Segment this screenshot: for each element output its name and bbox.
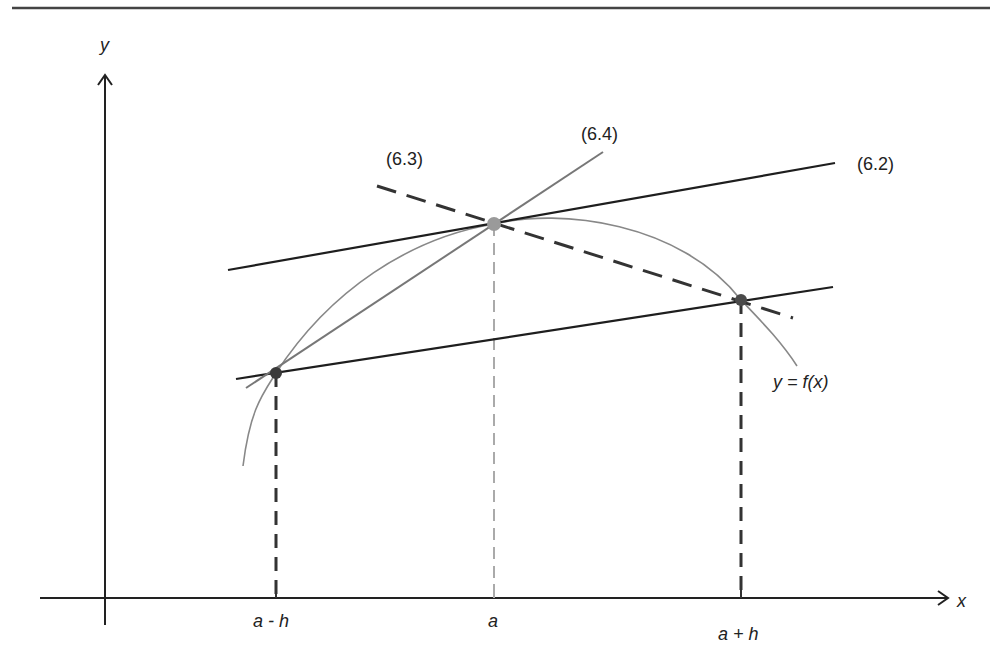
x-axis-label: x <box>956 591 967 611</box>
tick-label-a-minus-h: a - h <box>253 611 289 631</box>
tick-label-a: a <box>488 611 498 631</box>
y-axis-label: y <box>98 35 110 55</box>
function-curve <box>243 218 797 466</box>
label-6-3: (6.3) <box>386 149 423 169</box>
center-point <box>487 217 501 231</box>
diagram-canvas: y x a - h a a + h (6.3) (6.4) (6.2) y = … <box>0 0 1000 663</box>
right-point <box>735 294 747 306</box>
tick-label-a-plus-h: a + h <box>718 624 759 644</box>
left-point <box>270 367 282 379</box>
y-axis <box>98 75 112 625</box>
label-6-4: (6.4) <box>581 124 618 144</box>
central-difference-line <box>228 163 835 270</box>
backward-difference-line <box>377 186 793 318</box>
forward-difference-line <box>246 152 603 388</box>
curve-label: y = f(x) <box>771 372 829 392</box>
label-6-2: (6.2) <box>857 154 894 174</box>
